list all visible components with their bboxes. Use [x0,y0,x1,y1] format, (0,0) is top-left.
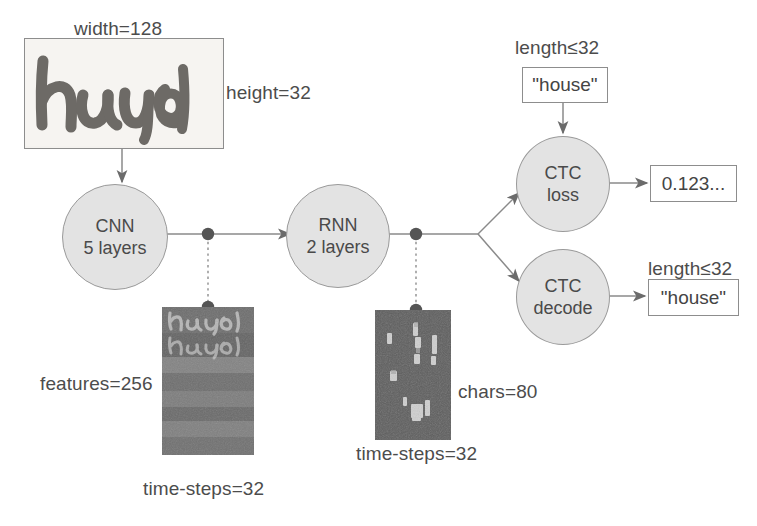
ground-truth-value: "house" [532,74,597,96]
node-ctc-decode-line2: decode [533,297,592,319]
arrow-branch-to-ctc-decode [478,234,519,281]
feature-map-features-label: features=256 [40,373,153,394]
node-ctc-loss-line1: CTC [545,162,582,184]
decoded-output-length-label: length≤32 [648,258,732,279]
node-ctc-decode-line1: CTC [545,275,582,297]
node-cnn[interactable]: CNN 5 layers [62,184,168,290]
node-rnn-line1: RNN [319,214,358,236]
cnn-feature-map-image [162,307,254,455]
node-ctc-loss[interactable]: CTC loss [516,136,610,232]
node-cnn-line2: 5 layers [83,237,146,259]
node-cnn-line1: CNN [96,215,135,237]
loss-output-box[interactable]: 0.123... [650,165,737,202]
rnn-output-matrix [375,310,451,440]
ground-truth-length-label: length≤32 [515,37,599,58]
junction-dot-cnn [202,228,214,240]
rnn-output-matrix-image [375,310,451,440]
arrow-branch-to-ctc-loss [478,193,519,234]
decoded-output-box[interactable]: "house" [648,279,739,316]
input-image-box [24,38,224,149]
rnn-matrix-chars-label: chars=80 [458,381,538,402]
input-height-label: height=32 [226,82,311,103]
node-rnn[interactable]: RNN 2 layers [286,184,390,288]
input-width-label: width=128 [74,18,162,39]
diagram-canvas: width=128 height=32 CNN 5 layers RNN 2 l… [0,0,757,526]
node-ctc-decode[interactable]: CTC decode [516,249,610,345]
feature-map-timesteps-label: time-steps=32 [143,478,264,499]
cnn-feature-map [162,307,254,455]
loss-output-value: 0.123... [662,173,725,195]
ground-truth-box[interactable]: "house" [522,67,608,103]
decoded-output-value: "house" [661,287,726,309]
junction-dot-rnn [410,228,422,240]
node-ctc-loss-line2: loss [547,184,579,206]
node-rnn-line2: 2 layers [306,236,369,258]
handwritten-house-image [25,39,221,146]
rnn-matrix-timesteps-label: time-steps=32 [356,443,477,464]
